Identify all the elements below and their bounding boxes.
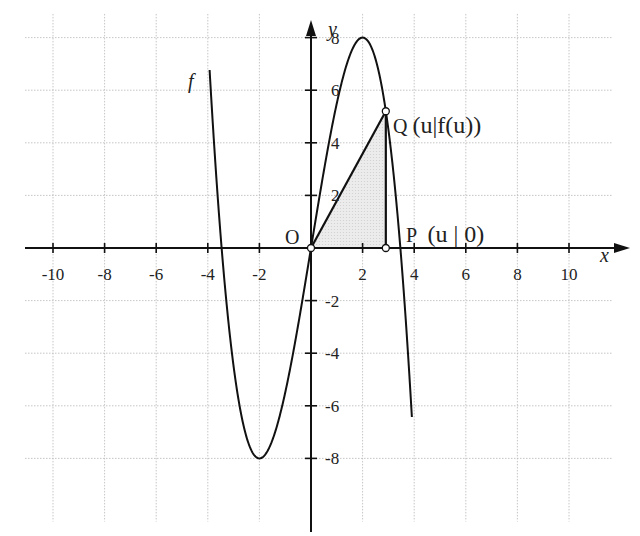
point-q-label: Q (u|f(u)) (393, 112, 481, 138)
x-tick-label: 8 (513, 265, 522, 284)
y-tick-label: -2 (325, 292, 339, 311)
x-tick-label: 6 (462, 265, 471, 284)
x-axis-label: x (599, 244, 609, 266)
x-tick-label: -2 (252, 265, 266, 284)
point-p-label: P (u | 0) (406, 221, 484, 247)
point-p-letter: P (406, 224, 417, 246)
x-tick-label: 10 (561, 265, 578, 284)
function-graph: x y f O P (u | 0) Q (u|f(u)) -10-8-6-4-2… (0, 0, 640, 536)
y-tick-label: 2 (331, 186, 340, 205)
y-tick-label: -4 (325, 344, 340, 363)
x-tick-label: -10 (42, 265, 65, 284)
point-p-coords: (u | 0) (427, 221, 484, 247)
y-axis-arrow-icon (306, 20, 316, 36)
x-axis-arrow-icon (614, 243, 630, 253)
point-O-marker (308, 245, 315, 252)
y-tick-label: -8 (325, 449, 339, 468)
x-tick-label: -8 (98, 265, 112, 284)
origin-label: O (285, 226, 299, 248)
point-q-coords: (u|f(u)) (412, 112, 481, 138)
point-Q-marker (382, 108, 389, 115)
y-tick-label: 4 (331, 134, 340, 153)
function-label: f (188, 70, 196, 93)
y-tick-label: 6 (331, 81, 340, 100)
point-P-marker (382, 245, 389, 252)
x-tick-label: -6 (149, 265, 163, 284)
y-tick-label: 8 (331, 29, 340, 48)
x-tick-label: 4 (410, 265, 419, 284)
y-tick-label: -6 (325, 397, 339, 416)
grid-lines (25, 14, 612, 522)
point-q-letter: Q (393, 115, 408, 137)
x-tick-label: -4 (201, 265, 216, 284)
x-tick-label: 2 (358, 265, 367, 284)
